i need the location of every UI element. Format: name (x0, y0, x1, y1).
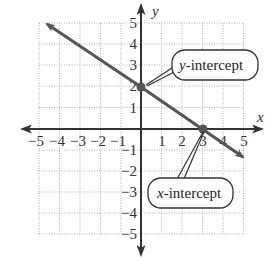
svg-text:−4: −4 (49, 133, 65, 149)
svg-text:5: 5 (240, 133, 248, 149)
svg-text:−4: −4 (121, 205, 137, 221)
plotted-line (141, 87, 243, 157)
svg-text:−5: −5 (121, 226, 137, 242)
svg-text:5: 5 (130, 15, 138, 31)
svg-text:−2: −2 (90, 133, 106, 149)
svg-text:−1: −1 (121, 142, 137, 158)
svg-text:3: 3 (130, 57, 138, 73)
y-axis-label: y (150, 3, 159, 19)
x-axis-label: x (256, 109, 264, 125)
svg-text:1: 1 (130, 100, 138, 116)
y-intercept-point (137, 83, 146, 92)
svg-text:4: 4 (130, 36, 138, 52)
y-intercept-callout: y-intercept (146, 50, 258, 86)
x-tick-labels: −5 −4 −3 −2 −1 1 2 3 4 5 (28, 133, 248, 149)
svg-text:−3: −3 (121, 184, 137, 200)
svg-text:−2: −2 (121, 163, 137, 179)
graph-svg: y x −5 −4 −3 −2 −1 1 2 3 4 5 5 4 3 2 1 −… (0, 0, 274, 267)
plotted-line (47, 24, 141, 87)
svg-text:−3: −3 (70, 133, 86, 149)
svg-text:x-intercept: x-intercept (156, 185, 222, 201)
svg-text:1: 1 (158, 133, 166, 149)
svg-text:−5: −5 (28, 133, 44, 149)
svg-text:y-intercept: y-intercept (177, 57, 244, 73)
coordinate-graph: y x −5 −4 −3 −2 −1 1 2 3 4 5 5 4 3 2 1 −… (0, 0, 274, 267)
svg-text:2: 2 (178, 133, 186, 149)
